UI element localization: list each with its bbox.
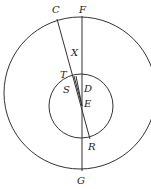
label-S: S — [63, 84, 70, 95]
label-D: D — [83, 83, 92, 94]
label-E: E — [83, 98, 92, 109]
label-X: X — [70, 47, 79, 58]
label-F: F — [78, 4, 87, 15]
geometry-diagram: C F X T S D E R G — [0, 0, 151, 189]
label-G: G — [77, 175, 85, 186]
label-T: T — [60, 69, 68, 80]
label-C: C — [52, 4, 60, 15]
label-R: R — [87, 141, 96, 152]
